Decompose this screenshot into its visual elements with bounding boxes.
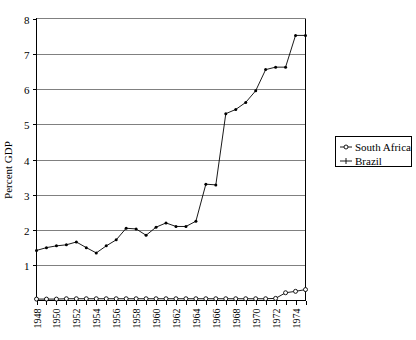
data-point-south-africa [124, 297, 128, 301]
data-point-brazil [115, 238, 118, 241]
x-axis-tick-label: 1954 [91, 309, 102, 329]
legend-marker-open-circle-icon [344, 145, 348, 149]
x-axis-tick-label: 1952 [71, 309, 82, 329]
data-point-brazil [45, 246, 48, 249]
data-point-brazil [165, 221, 168, 224]
chart-container: 12345678 1948195019521954195619581960196… [0, 0, 416, 340]
legend-label: South Africa [355, 141, 411, 153]
data-point-south-africa [94, 297, 98, 301]
legend-label: Brazil [355, 155, 382, 167]
data-point-brazil [284, 66, 287, 69]
x-axis-tick-label: 1970 [251, 309, 262, 329]
data-point-brazil [274, 66, 277, 69]
data-point-south-africa [274, 296, 278, 300]
data-point-south-africa [64, 297, 68, 301]
legend: South AfricaBrazil [336, 137, 412, 168]
data-point-south-africa [35, 297, 39, 301]
data-point-south-africa [134, 297, 138, 301]
y-axis-tick-label: 7 [24, 49, 30, 61]
x-axis-tick-label: 1956 [111, 309, 122, 329]
x-axis-tick-label: 1966 [211, 309, 222, 329]
y-axis-title: Percent GDP [2, 141, 14, 199]
data-point-brazil [125, 227, 128, 230]
data-point-brazil [264, 68, 267, 71]
data-point-brazil [244, 101, 247, 104]
data-point-brazil [254, 89, 257, 92]
x-axis-tick-label: 1974 [291, 309, 302, 329]
data-point-south-africa [194, 297, 198, 301]
data-point-brazil [174, 225, 177, 228]
data-point-south-africa [244, 297, 248, 301]
data-point-south-africa [184, 297, 188, 301]
data-point-brazil [145, 234, 148, 237]
data-point-brazil [105, 244, 108, 247]
x-axis-tick-label: 1968 [231, 309, 242, 329]
x-axis-tick-label: 1948 [32, 309, 43, 329]
data-point-south-africa [204, 297, 208, 301]
x-axis-tick-label: 1972 [271, 309, 282, 329]
y-axis-ticks-group [33, 20, 37, 266]
data-point-brazil [95, 251, 98, 254]
x-axis-tick-label: 1958 [131, 309, 142, 329]
data-point-brazil [184, 225, 187, 228]
data-point-brazil [304, 34, 307, 37]
y-axis-tick-label: 5 [24, 119, 30, 131]
y-axis-tick-labels-group: 12345678 [24, 14, 30, 272]
data-point-brazil [224, 112, 227, 115]
series-line-brazil [37, 35, 306, 252]
data-point-south-africa [74, 297, 78, 301]
series-lines-group [37, 35, 306, 299]
data-point-brazil [155, 226, 158, 229]
data-point-brazil [135, 227, 138, 230]
data-point-south-africa [154, 297, 158, 301]
data-point-south-africa [44, 297, 48, 301]
data-point-brazil [35, 249, 38, 252]
data-point-south-africa [234, 297, 238, 301]
x-axis-tick-label: 1962 [171, 309, 182, 329]
data-point-south-africa [214, 297, 218, 301]
data-point-south-africa [174, 297, 178, 301]
line-chart: 12345678 1948195019521954195619581960196… [0, 0, 416, 340]
y-axis-tick-label: 1 [24, 260, 30, 272]
data-point-south-africa [224, 297, 228, 301]
data-point-brazil [55, 244, 58, 247]
x-axis-tick-label: 1950 [51, 309, 62, 329]
y-axis-tick-label: 2 [24, 225, 30, 237]
data-point-brazil [204, 183, 207, 186]
data-point-south-africa [144, 297, 148, 301]
data-point-south-africa [104, 297, 108, 301]
data-point-south-africa [164, 297, 168, 301]
data-point-brazil [194, 220, 197, 223]
x-axis-tick-label: 1964 [191, 309, 202, 329]
data-point-brazil [234, 108, 237, 111]
gridlines-group [37, 55, 306, 266]
series-markers-group [35, 34, 308, 301]
data-point-brazil [214, 183, 217, 186]
y-axis-tick-label: 3 [24, 190, 30, 202]
data-point-brazil [65, 243, 68, 246]
x-axis-tick-label: 1960 [151, 309, 162, 329]
data-point-south-africa [284, 291, 288, 295]
data-point-south-africa [304, 288, 308, 292]
y-axis-tick-label: 8 [24, 14, 30, 26]
y-axis-tick-label: 6 [24, 84, 30, 96]
data-point-south-africa [294, 289, 298, 293]
data-point-brazil [294, 34, 297, 37]
data-point-brazil [85, 246, 88, 249]
data-point-brazil [75, 240, 78, 243]
data-point-south-africa [264, 297, 268, 301]
data-point-south-africa [84, 297, 88, 301]
y-axis-tick-label: 4 [24, 155, 30, 167]
data-point-south-africa [254, 297, 258, 301]
x-axis-tick-labels-group: 1948195019521954195619581960196219641966… [32, 309, 302, 329]
data-point-south-africa [114, 297, 118, 301]
data-point-south-africa [54, 297, 58, 301]
